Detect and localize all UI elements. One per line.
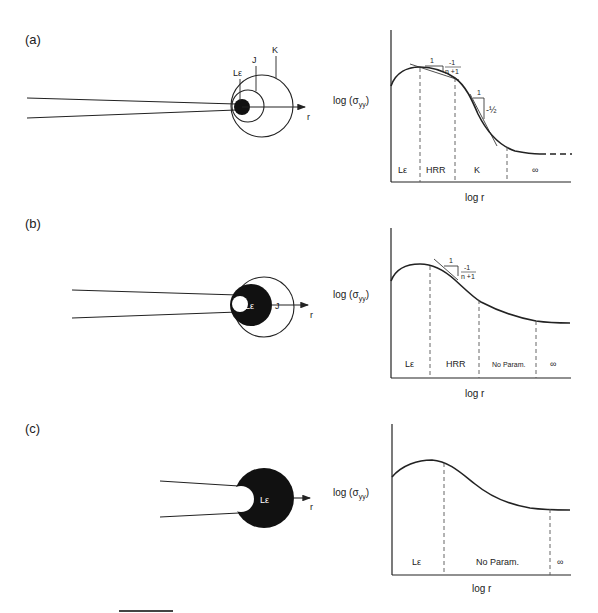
k-tangent: [470, 94, 497, 146]
crack-sketch-b: Lε J r: [72, 277, 313, 337]
hrr-tangent: [434, 259, 458, 280]
y-axis-label: log (σyy): [333, 95, 369, 109]
crack-flank-lower: [27, 110, 236, 118]
x-axis-label: log r: [465, 192, 485, 203]
crack-flank-upper: [27, 98, 236, 104]
region-label: Lε: [412, 557, 421, 567]
j-zone-label: J: [252, 55, 257, 65]
slope-triangle: [444, 266, 458, 276]
slope-rise-den: n +1: [461, 273, 475, 280]
slope-run: 1: [430, 57, 434, 64]
crack-flank-lower: [72, 312, 238, 318]
panel-label-c: (c): [25, 421, 40, 436]
crack-flank-lower: [160, 513, 239, 517]
y-axis-label: log (σyy): [333, 289, 369, 303]
region-label: ∞: [550, 359, 556, 369]
region-label: No Param.: [476, 557, 519, 567]
region-label: K: [474, 165, 480, 175]
region-label: HRR: [426, 165, 446, 175]
r-axis-label: r: [310, 310, 313, 320]
j-zone-label: J: [275, 301, 280, 311]
k-zone-label: K: [272, 45, 278, 55]
fracture-regimes-diagram: (a) r Lε J K log (σyy): [0, 0, 598, 613]
y-axis-label: log (σyy): [333, 487, 369, 501]
stress-curve: [391, 67, 540, 154]
stress-chart-b: log (σyy) 1 -1 n +1 Lε HRR No Param. ∞ l…: [333, 228, 571, 399]
crack-sketch-c: Lε r: [160, 468, 313, 528]
panel-label-b: (b): [25, 216, 41, 231]
region-label: No Param.: [492, 361, 526, 368]
slope-rise-den: n +1: [445, 68, 459, 75]
slope-run: 1: [477, 89, 481, 96]
region-label: Lε: [398, 165, 407, 175]
le-zone-label: Lε: [260, 495, 269, 505]
panel-label-a: (a): [25, 32, 41, 47]
le-zone-label: Lε: [233, 68, 242, 78]
r-axis-label: r: [310, 502, 313, 512]
region-label: ∞: [557, 557, 563, 567]
region-label: ∞: [532, 165, 538, 175]
blunted-tip-notch: [228, 486, 254, 512]
le-zone-label: Lε: [245, 301, 254, 311]
stress-chart-c: log (σyy) Lε No Param. ∞ log r: [333, 424, 571, 594]
slope-rise-num: -1: [464, 264, 470, 271]
panel-c: (c) Lε r log (σyy) Lε No Param. ∞ log r: [25, 421, 571, 594]
panel-a: (a) r Lε J K log (σyy): [25, 30, 572, 203]
region-label: Lε: [405, 359, 414, 369]
panel-b: (b) Lε J r log (σyy) 1 -1 n +1: [25, 216, 571, 399]
x-axis-label: log r: [465, 388, 485, 399]
stress-curve: [391, 264, 570, 323]
slope-rise: -½: [486, 105, 497, 115]
x-axis-label: log r: [472, 583, 492, 594]
region-label: HRR: [446, 359, 466, 369]
crack-sketch-a: r Lε J K: [27, 45, 310, 137]
crack-flank-upper: [160, 481, 239, 486]
r-axis-label: r: [307, 112, 310, 122]
stress-chart-a: log (σyy) 1 -1 n +1 1 -½ Lε HRR K ∞: [333, 30, 572, 203]
slope-run: 1: [449, 257, 453, 264]
crack-flank-upper: [72, 290, 238, 295]
slope-rise-num: -1: [449, 59, 455, 66]
stress-curve: [392, 460, 570, 510]
